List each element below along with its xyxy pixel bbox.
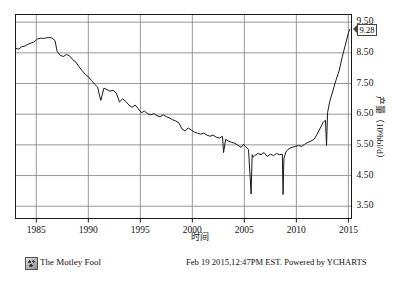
chart-container: 9.508.507.506.505.504.503.50 19851990199… (0, 0, 399, 284)
plot-frame (16, 15, 352, 219)
x-axis-title: 时间 (0, 233, 399, 242)
data-series-group (16, 29, 350, 195)
motley-fool-logo-icon (25, 257, 38, 270)
y-tick-label: 4.50 (357, 171, 374, 181)
y-tick-label: 6.50 (357, 109, 374, 119)
gridlines (16, 15, 352, 223)
y-tick-label: 5.50 (357, 140, 374, 150)
footer-credit: Feb 19 2015,12:47PM EST. Powered by YCHA… (186, 257, 366, 268)
footer-brand: The Motley Fool (40, 257, 101, 268)
y-tick-label: 8.50 (357, 48, 374, 58)
y-tick-label: 7.50 (357, 79, 374, 89)
series-line (16, 29, 350, 195)
y-tick-label: 3.50 (357, 201, 374, 211)
y-axis-title: 产量（10⁶bbl/d） (375, 96, 384, 163)
last-value-callout: 9.28 (357, 24, 378, 36)
